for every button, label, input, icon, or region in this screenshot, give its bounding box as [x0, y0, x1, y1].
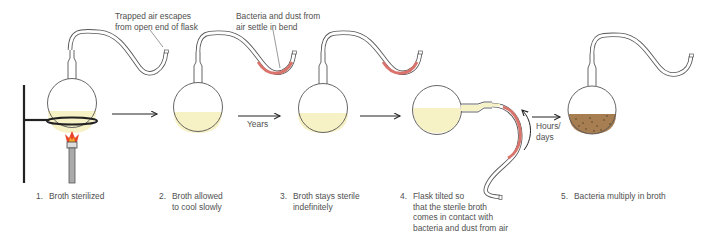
callout-trapped-air: Trapped air escapes from open end of fla…	[115, 11, 198, 32]
flask-1-heated	[24, 30, 169, 183]
curved-arrow-icon	[522, 110, 531, 150]
flask-3-sterile	[298, 33, 423, 133]
bunsen-burner-icon	[69, 148, 75, 183]
step-3-caption: 3. Broth stays sterile indefinitely	[280, 191, 360, 212]
arrow-label-hours-days: Hours/ days	[536, 121, 561, 142]
step-2-caption: 2. Broth allowed to cool slowly	[159, 191, 223, 212]
callout-bacteria-settle: Bacteria and dust from air settle in ben…	[236, 11, 320, 32]
step-5-caption: 5. Bacteria multiply in broth	[561, 191, 666, 202]
flask-5-contaminated	[568, 35, 694, 134]
flask-4-tilted	[413, 86, 531, 200]
arrow-label-years: Years	[247, 119, 268, 130]
flask-2-cooling	[174, 30, 297, 133]
diagram: Trapped air escapes from open end of fla…	[0, 0, 715, 243]
step-1-caption: 1. Broth sterilized	[36, 191, 104, 202]
step-4-caption: 4. Flask tilted so that the sterile brot…	[400, 191, 508, 233]
